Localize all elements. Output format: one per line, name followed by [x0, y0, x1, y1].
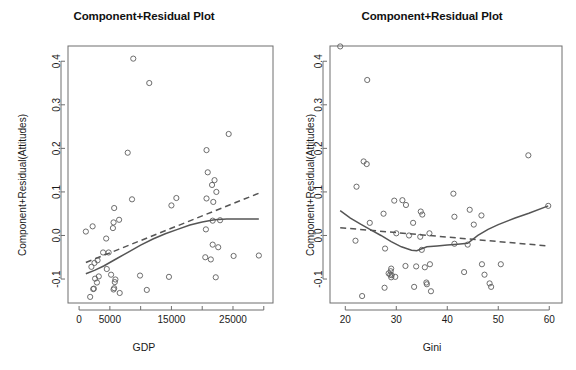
y-tick-label: -0.1 [52, 270, 63, 288]
data-point [226, 131, 231, 136]
data-point [403, 263, 408, 268]
plot-frame [68, 46, 273, 303]
data-point [418, 209, 423, 214]
y-tick-label: -0.1 [314, 270, 325, 288]
x-tick-label: 40 [442, 314, 454, 325]
figure-root: Component+Residual Plot Component+Residu… [0, 0, 576, 370]
x-tick-label: 60 [544, 314, 556, 325]
data-point [414, 264, 419, 269]
data-point [403, 202, 408, 207]
data-point [256, 253, 261, 258]
data-point [428, 289, 433, 294]
x-tick-label: 5000 [99, 314, 122, 325]
data-point [203, 227, 208, 232]
plot-frame [330, 46, 562, 303]
data-point [129, 197, 134, 202]
data-point [147, 80, 152, 85]
panel-gdp: Component+Residual Plot Component+Residu… [0, 0, 288, 370]
data-point [422, 265, 427, 270]
data-point [420, 212, 425, 217]
data-point [166, 274, 171, 279]
data-point [471, 222, 476, 227]
data-point [204, 196, 209, 201]
data-point [213, 275, 218, 280]
data-point [411, 220, 416, 225]
data-point [88, 294, 93, 299]
data-point [214, 189, 219, 194]
data-point [451, 191, 456, 196]
data-point [90, 224, 95, 229]
data-point [110, 225, 115, 230]
y-tick-label: 0.1 [314, 185, 325, 199]
y-tick-label: 0.4 [314, 54, 325, 68]
data-point [400, 198, 405, 203]
scatter-svg-gdp: -0.10.00.10.20.30.4050001500025000 [0, 0, 288, 370]
data-point [381, 211, 386, 216]
y-tick-label: 0.0 [52, 228, 63, 242]
data-point [104, 266, 109, 271]
data-point [211, 199, 216, 204]
data-point [382, 285, 387, 290]
data-point [208, 257, 213, 262]
data-point [137, 273, 142, 278]
x-tick-label: 30 [391, 314, 403, 325]
data-point [467, 207, 472, 212]
data-point [394, 231, 399, 236]
data-point [125, 150, 130, 155]
data-point [479, 213, 484, 218]
data-point [203, 255, 208, 260]
data-point [367, 220, 372, 225]
data-point [112, 205, 117, 210]
x-tick-label: 15000 [158, 314, 186, 325]
y-tick-label: 0.4 [52, 54, 63, 68]
data-point [360, 293, 365, 298]
y-tick-label: 0.2 [52, 141, 63, 155]
data-point [83, 229, 88, 234]
y-tick-label: 0.3 [314, 97, 325, 111]
data-point [104, 236, 109, 241]
data-point [144, 287, 149, 292]
data-point [526, 153, 531, 158]
data-point [382, 246, 387, 251]
data-point [117, 217, 122, 222]
data-point [111, 220, 116, 225]
data-point [108, 272, 113, 277]
y-tick-label: 0.1 [52, 185, 63, 199]
loess-smooth-line [340, 206, 548, 251]
data-point [479, 262, 484, 267]
data-point [392, 198, 397, 203]
data-point [169, 203, 174, 208]
panel-gini: Component+Residual Plot Component+Residu… [288, 0, 576, 370]
y-tick-label: 0.0 [314, 228, 325, 242]
data-point [452, 214, 457, 219]
x-tick-label: 25000 [219, 314, 247, 325]
data-point [354, 184, 359, 189]
plot-canvas-gini: -0.10.00.10.20.30.42030405060 [288, 0, 576, 370]
data-point [131, 56, 136, 61]
y-tick-label: 0.3 [52, 97, 63, 111]
data-point [412, 284, 417, 289]
data-point [174, 195, 179, 200]
scatter-svg-gini: -0.10.00.10.20.30.42030405060 [288, 0, 576, 370]
y-tick-label: 0.2 [314, 141, 325, 155]
data-point [117, 290, 122, 295]
data-point [204, 148, 209, 153]
data-point [210, 242, 215, 247]
data-point [498, 262, 503, 267]
data-point [231, 253, 236, 258]
data-point [482, 272, 487, 277]
data-point [353, 238, 358, 243]
x-tick-label: 20 [340, 314, 352, 325]
data-point [216, 245, 221, 250]
data-point [209, 182, 214, 187]
data-point [427, 262, 432, 267]
data-point [205, 170, 210, 175]
linear-fit-line [86, 193, 259, 262]
data-point [462, 269, 467, 274]
data-point [365, 77, 370, 82]
x-tick-label: 50 [493, 314, 505, 325]
plot-canvas-gdp: -0.10.00.10.20.30.4050001500025000 [0, 0, 288, 370]
x-tick-label: 0 [76, 314, 82, 325]
